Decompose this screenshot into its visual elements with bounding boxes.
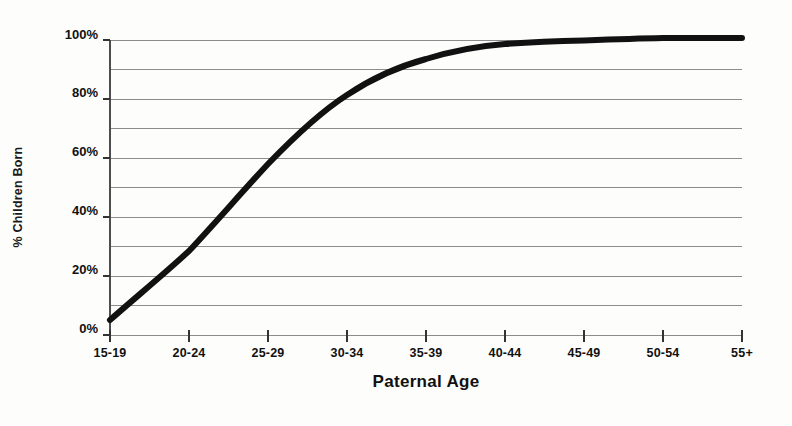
x-tick-label-45-49: 45-49 — [544, 346, 624, 360]
chart-figure: % Children Born 100% 80% 60% 40% 20% 0% — [0, 0, 792, 426]
x-tick-label-50-54: 50-54 — [623, 346, 703, 360]
x-tick-label-40-44: 40-44 — [465, 346, 545, 360]
gridlines — [110, 40, 742, 335]
x-axis-title: Paternal Age — [110, 372, 742, 392]
x-tick-label-30-34: 30-34 — [307, 346, 387, 360]
plot-area — [0, 0, 792, 426]
x-tick-label-15-19: 15-19 — [70, 346, 150, 360]
x-tick-label-25-29: 25-29 — [228, 346, 308, 360]
x-tick-label-55-plus: 55+ — [702, 346, 782, 360]
x-tick-label-35-39: 35-39 — [386, 346, 466, 360]
y-axis-ticks — [103, 40, 110, 335]
x-tick-label-20-24: 20-24 — [149, 346, 229, 360]
data-series-line — [110, 38, 742, 320]
x-axis-ticks — [110, 330, 742, 342]
